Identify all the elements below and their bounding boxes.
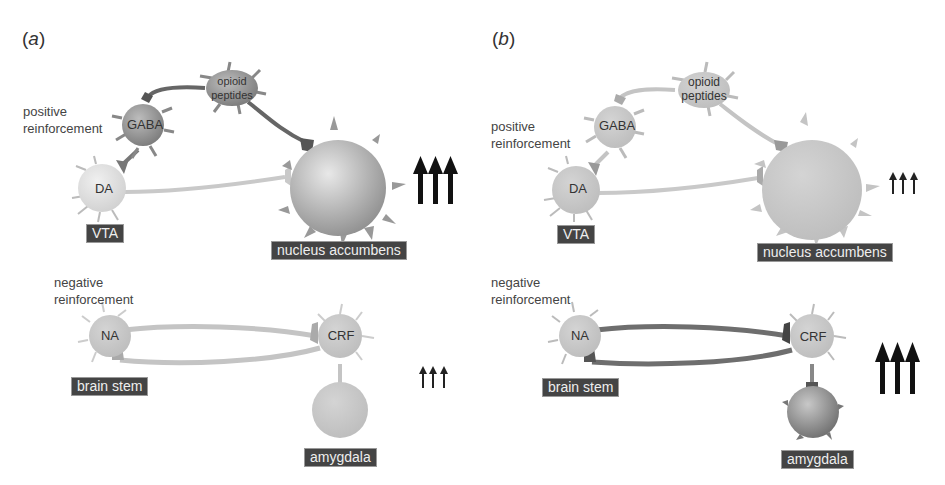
terminal-nacc-side xyxy=(757,166,763,186)
panel-a: (a) positive reinforcement opioid peptid… xyxy=(0,0,472,485)
panel-b: (b) positive reinforcement opioid peptid… xyxy=(470,0,942,485)
axon-opioid-to-gaba xyxy=(148,87,205,97)
negative-reinforcement-label: negative reinforcement xyxy=(491,274,570,308)
axon-da-to-nacc xyxy=(598,178,758,193)
gaba-label: GABA xyxy=(127,118,163,132)
nacc-cell xyxy=(750,112,880,246)
arrows-small-up xyxy=(889,172,918,194)
crf-label: CRF xyxy=(328,329,355,343)
positive-reinforcement-label: positive reinforcement xyxy=(23,103,102,137)
arrows-large-up xyxy=(875,342,920,394)
opioid-peptides-label: opioid peptides xyxy=(681,75,726,103)
axon-opioid-to-nacc xyxy=(248,102,305,142)
axon-opioid-to-gaba xyxy=(620,89,675,98)
amygdala-tag: amygdala xyxy=(781,450,854,469)
terminal-crf xyxy=(310,322,318,344)
panel-label-a: (a) xyxy=(22,28,45,50)
terminal-crf xyxy=(782,322,790,344)
axon-na-to-crf xyxy=(124,327,316,336)
negative-reinforcement-label: negative reinforcement xyxy=(54,274,133,308)
positive-reinforcement-label: positive reinforcement xyxy=(491,118,570,152)
arrows-large-up xyxy=(413,156,458,204)
crf-label: CRF xyxy=(800,330,827,344)
vta-tag: VTA xyxy=(86,224,124,243)
opioid-peptides-label: opioid peptides xyxy=(211,74,253,102)
amygdala-cell xyxy=(312,382,368,438)
axon-da-to-nacc xyxy=(125,177,285,192)
panel-label-b: (b) xyxy=(492,28,515,50)
amygdala-tag: amygdala xyxy=(304,448,377,467)
arrows-small-up xyxy=(419,366,448,388)
axon-crf-to-na xyxy=(120,348,320,363)
na-label: NA xyxy=(571,329,589,343)
da-label: DA xyxy=(569,182,587,196)
axon-opioid-to-nacc xyxy=(720,104,778,144)
nucleus-accumbens-tag: nucleus accumbens xyxy=(757,243,893,262)
brain-stem-tag: brain stem xyxy=(71,377,148,396)
vta-tag: VTA xyxy=(557,225,595,244)
nacc-cell xyxy=(278,116,406,246)
amygdala-cell xyxy=(782,386,844,440)
axon-na-to-crf xyxy=(596,327,788,336)
brain-stem-tag: brain stem xyxy=(542,378,619,397)
nucleus-accumbens-tag: nucleus accumbens xyxy=(271,241,407,260)
gaba-label: GABA xyxy=(599,119,635,133)
axon-crf-to-na xyxy=(592,350,792,364)
da-label: DA xyxy=(95,182,113,196)
na-label: NA xyxy=(101,329,119,343)
